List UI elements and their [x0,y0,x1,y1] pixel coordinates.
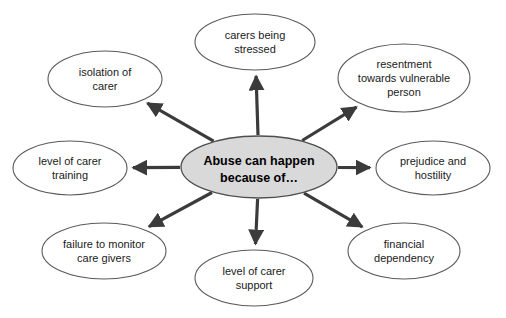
node-carers-being-stressed-ellipse [195,14,315,70]
diagram-canvas: carers beingstressedresentmenttowards vu… [0,0,506,318]
node-level-of-carer-support-ellipse [195,250,313,306]
node-failure-to-monitor-care-givers: failure to monitorcare givers [42,223,166,279]
node-financial-dependency-ellipse [348,223,460,279]
center-label-line1: Abuse can happen [203,154,314,168]
node-resentment-towards-vulnerable-person-label-line1: resentment [376,58,431,70]
node-level-of-carer-training-label-line2: training [52,169,88,181]
node-carers-being-stressed: carers beingstressed [195,14,315,70]
node-level-of-carer-training: level of carertraining [13,141,127,195]
center-label-line2: because of… [220,171,298,185]
arrow-to-isolation-of-carer [147,103,213,141]
node-prejudice-and-hostility-label-line2: hostility [415,169,452,181]
node-level-of-carer-training-ellipse [13,141,127,195]
node-prejudice-and-hostility: prejudice andhostility [376,141,490,195]
abuse-causes-center: Abuse can happen because of… [181,136,337,198]
node-financial-dependency-label-line2: dependency [374,252,434,264]
node-isolation-of-carer-label-line2: carer [92,80,117,92]
node-level-of-carer-support-label-line2: support [236,279,273,291]
spider-diagram: carers beingstressedresentmenttowards vu… [0,0,506,318]
node-resentment-towards-vulnerable-person-label-line3: person [387,86,421,98]
node-isolation-of-carer-ellipse [48,51,162,107]
node-financial-dependency-label-line1: financial [384,238,424,250]
node-prejudice-and-hostility-ellipse [376,141,490,195]
node-isolation-of-carer-label-line1: isolation of [79,66,133,78]
node-failure-to-monitor-care-givers-ellipse [42,223,166,279]
node-level-of-carer-support: level of carersupport [195,250,313,306]
node-resentment-towards-vulnerable-person-label-line2: towards vulnerable [358,72,450,84]
node-level-of-carer-training-label-line1: level of carer [39,155,102,167]
arrow-to-carers-being-stressed [256,76,258,135]
node-prejudice-and-hostility-label-line1: prejudice and [400,155,466,167]
node-financial-dependency: financialdependency [348,223,460,279]
arrow-to-level-of-carer-support [256,199,258,244]
node-carers-being-stressed-label-line1: carers being [225,29,286,41]
arrow-to-failure-to-monitor-care-givers [149,193,212,227]
node-resentment-towards-vulnerable-person: resentmenttowards vulnerableperson [338,44,470,112]
arrow-to-financial-dependency [304,193,362,227]
node-failure-to-monitor-care-givers-label-line1: failure to monitor [63,238,145,250]
node-carers-being-stressed-label-line2: stressed [234,43,276,55]
node-failure-to-monitor-care-givers-label-line2: care givers [77,252,131,264]
arrow-to-resentment-towards-vulnerable-person [302,107,356,140]
node-isolation-of-carer: isolation ofcarer [48,51,162,107]
node-level-of-carer-support-label-line1: level of carer [223,265,286,277]
